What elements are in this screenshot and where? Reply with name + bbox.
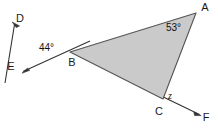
vertex-label-E: E xyxy=(7,60,14,72)
vertex-label-B: B xyxy=(68,56,75,68)
vertex-label-D: D xyxy=(16,12,24,24)
angle-label-B: 44° xyxy=(39,42,54,53)
arrowhead-E-icon xyxy=(22,68,30,73)
geometry-diagram: D E B A C F 44° 53° z xyxy=(0,0,218,130)
angle-label-A: 53° xyxy=(166,22,181,33)
angle-label-C: z xyxy=(167,90,172,101)
vertex-label-C: C xyxy=(155,105,163,117)
line-D-extended xyxy=(5,25,15,84)
vertex-label-F: F xyxy=(203,111,210,123)
arrowhead-F-icon xyxy=(194,112,201,116)
vertex-label-A: A xyxy=(201,1,209,13)
geometry-canvas: D E B A C F 44° 53° z xyxy=(0,0,218,130)
